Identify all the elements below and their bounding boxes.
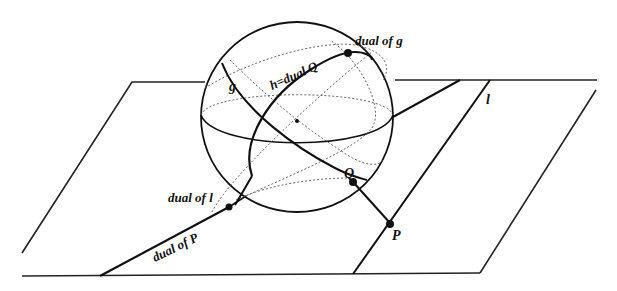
- line-to-plane-top: [393, 80, 460, 117]
- plane-bottom-edge: [22, 273, 480, 276]
- line-l: [353, 80, 490, 274]
- sphere: [201, 22, 393, 212]
- point-dual-of-l: [226, 204, 233, 211]
- label-g: g: [228, 79, 236, 94]
- label-dual-of-g: dual of g: [355, 33, 403, 48]
- label-P: P: [392, 228, 401, 243]
- dotted-circle-5: [236, 178, 350, 200]
- sphere-center: [295, 119, 299, 123]
- plane: [22, 80, 597, 276]
- sphere-outline: [201, 22, 393, 212]
- label-Q: Q: [344, 166, 354, 181]
- plane-right-edge: [480, 90, 596, 273]
- line-Q-P: [354, 183, 390, 223]
- label-dual-of-l: dual of l: [168, 190, 213, 205]
- line-dual-of-P: [100, 207, 229, 276]
- plane-top-left-edge: [22, 82, 205, 253]
- duality-diagram: g h=dual Q dual of g l Q P dual of l dua…: [0, 0, 617, 291]
- point-P: [386, 220, 394, 228]
- label-h-dual-Q: h=dual Q: [267, 58, 320, 93]
- point-dual-of-g: [344, 49, 352, 57]
- label-l: l: [486, 92, 490, 107]
- equator-back: [201, 95, 393, 115]
